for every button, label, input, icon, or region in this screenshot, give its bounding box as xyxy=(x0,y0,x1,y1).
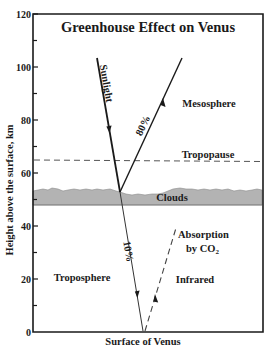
infrared-ray xyxy=(145,228,176,331)
tick-20: 20 xyxy=(21,274,31,285)
sunlight-arrow-icon xyxy=(106,126,111,133)
plot-frame xyxy=(33,14,263,332)
transmitted-pct-label: 10% xyxy=(121,240,135,263)
tick-100: 100 xyxy=(16,62,31,73)
absorption-label-line2: by CO2 xyxy=(186,243,219,256)
co2-subscript: 2 xyxy=(215,248,219,256)
y-axis-label: Height above the surface, km xyxy=(4,124,15,255)
tick-0: 0 xyxy=(26,327,31,338)
greenhouse-diagram: 120 100 80 60 40 20 0 Height above the s… xyxy=(0,0,271,349)
infrared-arrow-icon xyxy=(153,294,158,303)
transmitted-arrow-icon xyxy=(135,291,140,298)
tick-40: 40 xyxy=(21,221,31,232)
surface-label: Surface of Venus xyxy=(105,336,180,347)
clouds-band xyxy=(33,188,262,205)
tick-80: 80 xyxy=(21,115,31,126)
y-tick-labels: 120 100 80 60 40 20 0 xyxy=(16,9,31,338)
sunlight-label: Sunlight xyxy=(98,64,116,104)
infrared-label: Infrared xyxy=(176,274,214,285)
reflected-ray xyxy=(120,58,182,192)
troposphere-label: Troposphere xyxy=(54,272,111,283)
chart-title: Greenhouse Effect on Venus xyxy=(61,19,236,35)
clouds-label: Clouds xyxy=(156,192,188,203)
tick-60: 60 xyxy=(21,168,31,179)
mesosphere-label: Mesosphere xyxy=(182,98,236,109)
reflected-pct-label: 80% xyxy=(133,114,152,138)
tick-120: 120 xyxy=(16,9,31,20)
absorption-by-co: by CO xyxy=(186,243,215,254)
tropopause-line xyxy=(34,160,262,162)
absorption-label-line1: Absorption xyxy=(178,229,229,240)
tropopause-label: Tropopause xyxy=(182,149,235,160)
